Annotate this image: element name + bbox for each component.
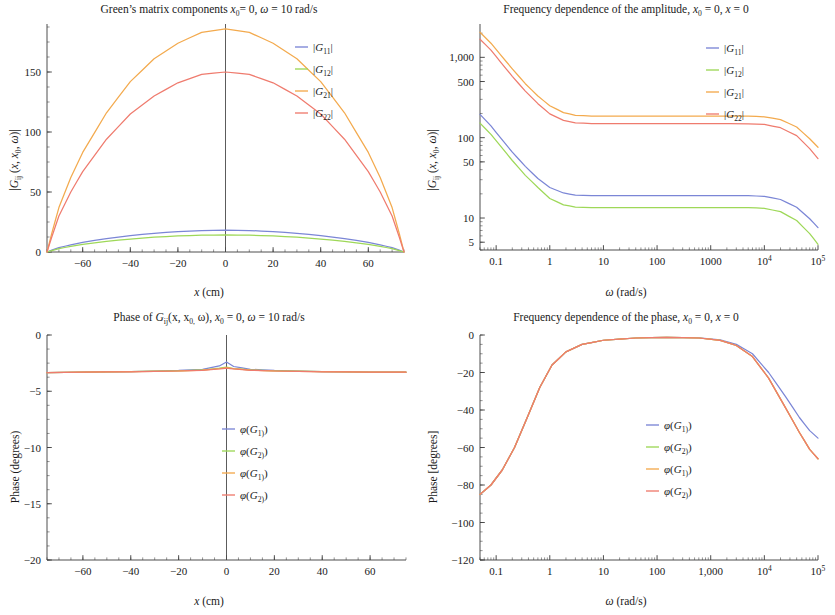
y-tick-label: −40 bbox=[457, 404, 475, 416]
x-tick-label: 104 bbox=[757, 254, 772, 267]
panel-amplitude-vs-omega: Frequency dependence of the amplitude, x… bbox=[418, 0, 835, 307]
x-tick-label: 20 bbox=[269, 565, 281, 577]
x-tick-label: 104 bbox=[757, 564, 772, 577]
y-tick-label: −120 bbox=[451, 554, 474, 566]
legend-label: φ(G1)) bbox=[664, 419, 692, 434]
panel-phase-vs-omega: Frequency dependence of the phase, x0 = … bbox=[418, 307, 835, 615]
series-line bbox=[480, 337, 818, 494]
x-tick-label: 0.1 bbox=[489, 255, 503, 267]
y-tick-label: 50 bbox=[30, 186, 42, 198]
series-line bbox=[480, 123, 818, 244]
ylabel-phase-vs-omega: Phase [degrees] bbox=[427, 431, 440, 503]
title-phase-vs-x: Phase of Gij(x, x0, ω), x0 = 0, ω = 10 r… bbox=[113, 311, 305, 326]
legend-label: |G22| bbox=[313, 107, 333, 122]
xlabel-amplitude-vs-omega: ω (rad/s) bbox=[605, 286, 646, 299]
x-tick-label: 105 bbox=[811, 564, 826, 577]
x-tick-label: −60 bbox=[74, 565, 92, 577]
series-line bbox=[480, 32, 818, 147]
x-tick-label: 10 bbox=[598, 255, 610, 267]
series-line bbox=[480, 337, 818, 494]
xlabel-amplitude-vs-x: x (cm) bbox=[193, 286, 224, 299]
legend-label: |G12| bbox=[724, 64, 744, 79]
svg-text:|Gij (x, x0, ω)|: |Gij (x, x0, ω)| bbox=[8, 129, 23, 190]
x-tick-label: 0 bbox=[223, 257, 229, 269]
x-tick-label: 10 bbox=[598, 565, 610, 577]
y-tick-label: 50 bbox=[463, 156, 475, 168]
legend-label: φ(G1)) bbox=[664, 463, 692, 478]
x-tick-label: 1 bbox=[547, 565, 553, 577]
y-tick-label: 100 bbox=[458, 132, 475, 144]
y-tick-label: −10 bbox=[24, 442, 42, 454]
series-line bbox=[480, 337, 818, 494]
series-line bbox=[480, 114, 818, 227]
xlabel-phase-vs-omega: ω (rad/s) bbox=[605, 595, 646, 608]
y-tick-label: −5 bbox=[29, 385, 41, 397]
x-tick-label: −40 bbox=[122, 257, 140, 269]
x-tick-label: 0 bbox=[224, 565, 230, 577]
svg-text:Frequency dependence of the ph: Frequency dependence of the phase, x0 = … bbox=[513, 311, 739, 326]
svg-text:Green’s matrix components x0=: Green’s matrix components x0= 0, ω = 10 … bbox=[101, 3, 318, 18]
x-tick-label: −20 bbox=[170, 565, 188, 577]
x-tick-label: 40 bbox=[317, 565, 329, 577]
svg-text:|Gij (x, x0, ω)|: |Gij (x, x0, ω)| bbox=[426, 129, 441, 190]
panel-phase-vs-x: Phase of Gij(x, x0, ω), x0 = 0, ω = 10 r… bbox=[0, 307, 418, 615]
y-tick-label: −80 bbox=[457, 479, 475, 491]
y-tick-label: 1,000 bbox=[449, 51, 474, 63]
legend-label: |G21| bbox=[313, 85, 333, 100]
series-line bbox=[480, 337, 818, 494]
y-tick-label: −20 bbox=[457, 367, 475, 379]
svg-text:Phase of Gij(x, x0, ω), x0 = 0: Phase of Gij(x, x0, ω), x0 = 0, ω = 10 r… bbox=[113, 311, 305, 326]
ylabel-amplitude-vs-omega: |Gij (x, x0, ω)| bbox=[426, 129, 441, 190]
series-line bbox=[480, 39, 818, 158]
plot-area-amplitude-vs-omega: 0.11101001000104105510501005001,000|G11|… bbox=[449, 24, 825, 267]
plot-area-phase-vs-x: −60−40−2002040600−5−10−15−20φ(G1))φ(G2))… bbox=[24, 329, 406, 577]
legend-label: |G11| bbox=[724, 42, 744, 57]
x-tick-label: 20 bbox=[268, 257, 280, 269]
y-tick-label: 0 bbox=[469, 329, 475, 341]
legend-label: |G11| bbox=[313, 41, 333, 56]
ylabel-phase-vs-x: Phase (degrees) bbox=[9, 431, 22, 504]
y-tick-label: −60 bbox=[457, 442, 475, 454]
plot-area-phase-vs-omega: 0.11101001,0001041050−20−40−60−80−100−12… bbox=[451, 329, 825, 577]
x-tick-label: 1,000 bbox=[698, 565, 723, 577]
x-tick-label: −40 bbox=[122, 565, 140, 577]
legend-label: |G12| bbox=[313, 63, 333, 78]
y-tick-label: −20 bbox=[24, 554, 42, 566]
y-tick-label: 150 bbox=[25, 66, 42, 78]
title-phase-vs-omega: Frequency dependence of the phase, x0 = … bbox=[513, 311, 739, 326]
svg-text:Frequency dependence of the am: Frequency dependence of the amplitude, x… bbox=[503, 3, 749, 18]
plot-area-amplitude-vs-x: −60−40−200204060050100150|G11||G12||G21|… bbox=[25, 24, 405, 269]
x-tick-label: 1000 bbox=[700, 255, 723, 267]
legend-label: φ(G2)) bbox=[664, 441, 692, 456]
legend-label: |G22| bbox=[724, 108, 744, 123]
y-tick-label: 500 bbox=[458, 76, 475, 88]
legend-label: |G21| bbox=[724, 86, 744, 101]
xlabel-phase-vs-x: x (cm) bbox=[193, 595, 224, 608]
y-tick-label: 100 bbox=[25, 126, 42, 138]
figure-four-panel-greens-matrix: Green’s matrix components x0= 0, ω = 10 … bbox=[0, 0, 835, 615]
x-tick-label: 60 bbox=[365, 565, 377, 577]
x-tick-label: −20 bbox=[169, 257, 187, 269]
legend-label: φ(G1)) bbox=[240, 423, 268, 438]
title-amplitude-vs-omega: Frequency dependence of the amplitude, x… bbox=[503, 3, 749, 18]
legend-label: φ(G2)) bbox=[240, 445, 268, 460]
panel-amplitude-vs-x: Green’s matrix components x0= 0, ω = 10 … bbox=[0, 0, 418, 307]
y-tick-label: 10 bbox=[463, 212, 475, 224]
x-tick-label: 100 bbox=[649, 565, 666, 577]
x-tick-label: 100 bbox=[649, 255, 666, 267]
ylabel-amplitude-vs-x: |Gij (x, x0, ω)| bbox=[8, 129, 23, 190]
x-tick-label: 40 bbox=[315, 257, 327, 269]
x-tick-label: 0.1 bbox=[489, 565, 503, 577]
y-tick-label: −100 bbox=[451, 517, 474, 529]
y-tick-label: 0 bbox=[36, 329, 42, 341]
x-tick-label: 105 bbox=[811, 254, 826, 267]
legend-label: φ(G2)) bbox=[240, 489, 268, 504]
y-tick-label: 5 bbox=[469, 236, 475, 248]
y-tick-label: −15 bbox=[24, 498, 42, 510]
x-tick-label: −60 bbox=[74, 257, 92, 269]
legend-label: φ(G1)) bbox=[240, 467, 268, 482]
x-tick-label: 60 bbox=[363, 257, 375, 269]
x-tick-label: 1 bbox=[547, 255, 553, 267]
title-amplitude-vs-x: Green’s matrix components x0= 0, ω = 10 … bbox=[101, 3, 318, 18]
legend-label: φ(G2)) bbox=[664, 485, 692, 500]
